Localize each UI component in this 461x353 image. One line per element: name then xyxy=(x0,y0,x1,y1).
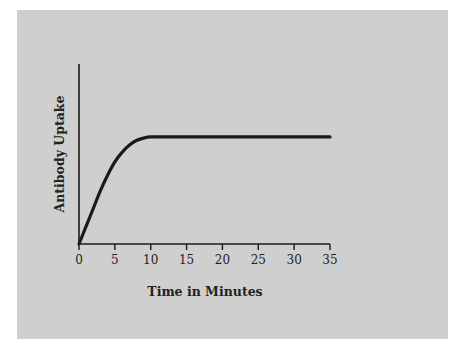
axes xyxy=(79,64,330,244)
data-line xyxy=(79,137,330,244)
x-tick-label: 30 xyxy=(287,253,302,267)
x-axis-title: Time in Minutes xyxy=(147,284,262,299)
x-tick-label: 35 xyxy=(322,253,337,267)
x-tick-label: 0 xyxy=(75,253,83,267)
x-tick-label: 25 xyxy=(251,253,266,267)
x-tick-label: 15 xyxy=(179,253,194,267)
x-tick-label: 5 xyxy=(111,253,119,267)
x-tick-label: 10 xyxy=(143,253,158,267)
chart: 05101520253035 Time in Minutes Antibody … xyxy=(0,0,461,353)
x-tick-label: 20 xyxy=(215,253,230,267)
y-axis-title: Antibody Uptake xyxy=(52,96,67,214)
x-ticks: 05101520253035 xyxy=(75,244,337,267)
